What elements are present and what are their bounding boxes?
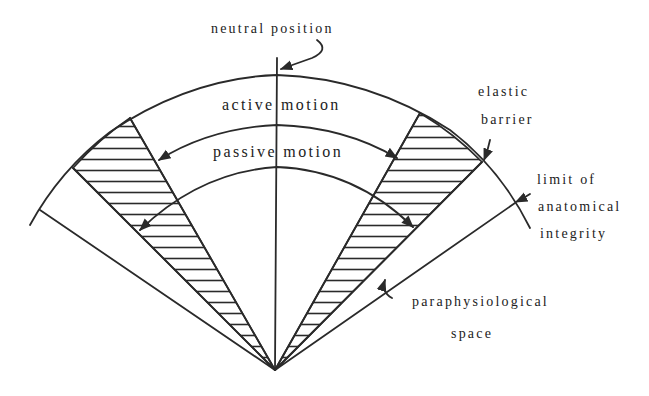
neutral-position-label: neutral position bbox=[211, 22, 334, 36]
paraphysiological-label-line2: space bbox=[451, 327, 493, 341]
active-motion-label: active motion bbox=[222, 97, 341, 113]
passive-motion-label: passive motion bbox=[213, 144, 343, 160]
limit-label-line3: integrity bbox=[540, 227, 607, 241]
limit-label-line1: limit of bbox=[537, 173, 596, 187]
limit-label-line2: anatomical bbox=[538, 200, 621, 214]
elastic-barrier-pointer bbox=[484, 140, 490, 160]
paraphysiological-label-line1: paraphysiological bbox=[412, 295, 549, 309]
neutral-position-pointer bbox=[281, 40, 322, 69]
limit-pointer bbox=[516, 194, 530, 202]
elastic-barrier-label-line2: barrier bbox=[481, 113, 534, 127]
range-of-motion-diagram bbox=[0, 0, 649, 396]
elastic-barrier-label-line1: elastic bbox=[478, 85, 529, 99]
